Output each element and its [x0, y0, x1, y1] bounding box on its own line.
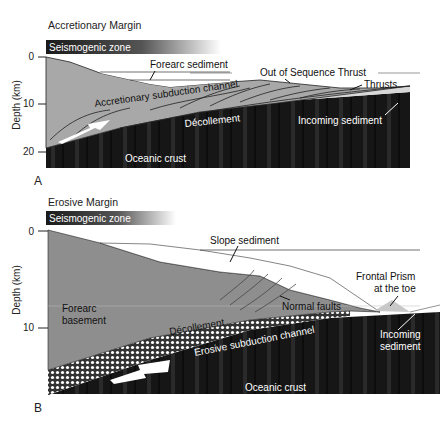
panel-b-title: Erosive Margin	[48, 196, 118, 208]
label-incoming-sediment-a: Incoming sediment	[298, 115, 382, 126]
seismogenic-zone-label: Seismogenic zone	[49, 42, 131, 53]
y-axis-label: Depth (km)	[11, 80, 22, 129]
seismogenic-zone-label-b: Seismogenic zone	[49, 213, 131, 224]
label-forearc-basement-1: Forearc	[62, 303, 96, 314]
panel-a: Accretionary Margin Seismogenic zone 0 1…	[11, 19, 420, 188]
subduction-margin-diagram: Accretionary Margin Seismogenic zone 0 1…	[0, 0, 441, 423]
y-tick-10: 10	[23, 98, 35, 109]
label-frontal-prism-1: Frontal Prism	[356, 271, 415, 282]
label-frontal-prism-2: at the toe	[374, 283, 416, 294]
y-axis-label-b: Depth (km)	[11, 265, 22, 314]
label-thrusts: Thrusts	[364, 79, 397, 90]
y-tick-10-b: 10	[23, 322, 35, 333]
panel-a-title: Accretionary Margin	[48, 19, 142, 31]
label-normal-faults: Normal faults	[282, 301, 341, 312]
label-oceanic-crust-b: Oceanic crust	[245, 382, 306, 393]
label-out-of-sequence-thrust: Out of Sequence Thrust	[260, 67, 366, 78]
label-forearc-basement-2: basement	[62, 315, 106, 326]
label-oceanic-crust-a: Oceanic crust	[125, 153, 186, 164]
panel-a-letter: A	[34, 174, 42, 188]
label-incoming-sediment-b2: sediment	[380, 341, 421, 352]
y-tick-0-b: 0	[28, 226, 34, 237]
y-tick-0: 0	[28, 51, 34, 62]
panel-b-letter: B	[34, 401, 42, 415]
y-tick-20: 20	[23, 146, 35, 157]
label-incoming-sediment-b1: Incoming	[380, 329, 421, 340]
panel-b: Erosive Margin Seismogenic zone 0 10 Dep…	[11, 196, 440, 415]
label-forearc-sediment: Forearc sediment	[150, 59, 228, 70]
label-slope-sediment: Slope sediment	[210, 235, 279, 246]
